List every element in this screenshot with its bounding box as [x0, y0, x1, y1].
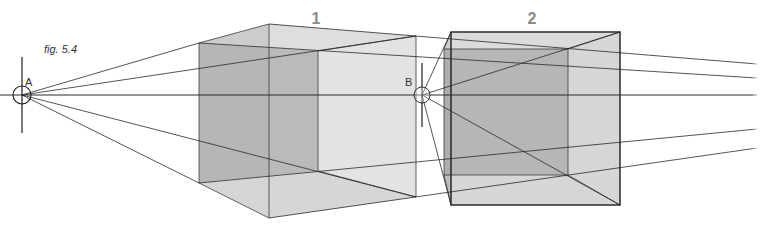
viewpoint-b-circle-icon	[414, 87, 430, 103]
viewpoint-b-label: B	[405, 76, 412, 88]
right-edge-fade	[751, 0, 765, 232]
cube-2: 2	[444, 10, 620, 205]
viewpoint-a-label: A	[25, 76, 33, 88]
cube-2-label: 2	[528, 10, 537, 27]
perspective-diagram: 1 2	[0, 0, 765, 232]
figure-caption: fig. 5.4	[44, 43, 77, 55]
cube-1-label: 1	[312, 10, 321, 27]
ray-a-4	[22, 95, 199, 183]
